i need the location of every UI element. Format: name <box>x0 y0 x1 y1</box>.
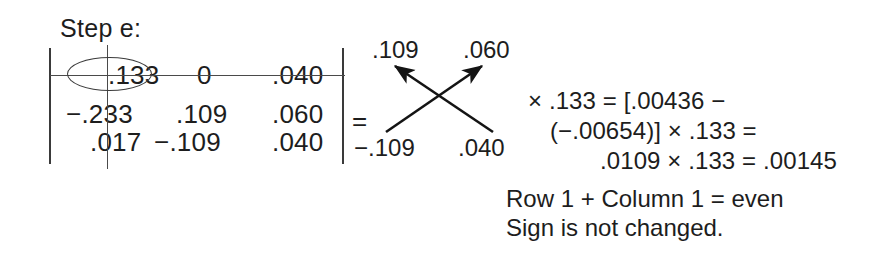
circled-pivot-ellipse <box>67 57 152 91</box>
matrix-cell-r3c1: .017 <box>90 127 141 158</box>
matrix-cell-r2c1: −.233 <box>66 99 133 130</box>
matrix-right-bracket <box>342 48 344 164</box>
sign-rule-note: Row 1 + Column 1 = even Sign is not chan… <box>506 184 894 242</box>
sign-rule-line-1: Row 1 + Column 1 = even <box>506 184 894 213</box>
matrix-cell-r3c2: −.109 <box>154 127 221 158</box>
matrix: .133 0 .040 −.233 .109 .060 .017 −.109 .… <box>46 48 351 166</box>
calculation-line-3: .0109 × .133 = .00145 <box>528 146 888 176</box>
arrow-up-left <box>395 66 493 132</box>
calculation-line-1: × .133 = [.00436 − <box>528 86 888 116</box>
matrix-cell-r3c3: .040 <box>272 127 323 158</box>
step-label: Step e: <box>60 14 141 43</box>
matrix-cell-r2c2: .109 <box>176 99 227 130</box>
calculation-line-2: (−.00654)] × .133 = <box>528 116 888 146</box>
calculation-block: × .133 = [.00436 − (−.00654)] × .133 = .… <box>528 86 888 176</box>
cross-arrows-svg <box>358 36 538 164</box>
matrix-left-bracket <box>49 48 51 164</box>
cross-multiply-diagram: .109 .060 −.109 .040 <box>358 36 538 164</box>
figure-canvas: Step e: .133 0 .040 −.233 .109 .060 .017… <box>0 0 894 266</box>
arrow-up-right <box>386 66 482 132</box>
matrix-cell-r2c3: .060 <box>272 99 323 130</box>
sign-rule-line-2: Sign is not changed. <box>506 213 894 242</box>
